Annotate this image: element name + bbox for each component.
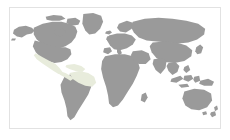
world-map-canvas[interactable] — [10, 8, 220, 128]
world-map-widget — [0, 0, 230, 140]
map-frame — [9, 7, 221, 129]
